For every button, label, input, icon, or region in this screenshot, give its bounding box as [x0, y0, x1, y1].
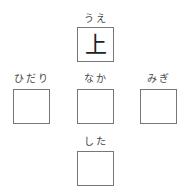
label-left: ひだり: [8, 73, 55, 85]
answer-box-top[interactable]: 上: [77, 27, 114, 62]
answer-box-center[interactable]: [77, 89, 114, 124]
label-right: みぎ: [140, 73, 177, 85]
answer-box-bottom[interactable]: [77, 151, 114, 186]
kanji-top: 上: [85, 34, 107, 56]
answer-box-left[interactable]: [13, 89, 50, 124]
answer-box-right[interactable]: [140, 89, 177, 124]
label-bottom: した: [77, 136, 114, 148]
label-top: うえ: [77, 13, 114, 25]
label-center: なか: [77, 73, 114, 85]
